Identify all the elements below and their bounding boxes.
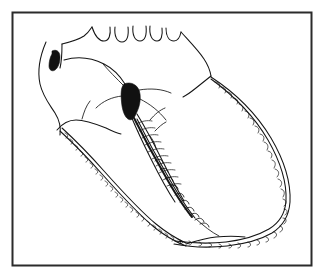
figure-root: insect wing and thorax outline, lateral …: [0, 0, 328, 280]
figure-border: [13, 13, 312, 266]
figure-canvas: [0, 0, 328, 280]
